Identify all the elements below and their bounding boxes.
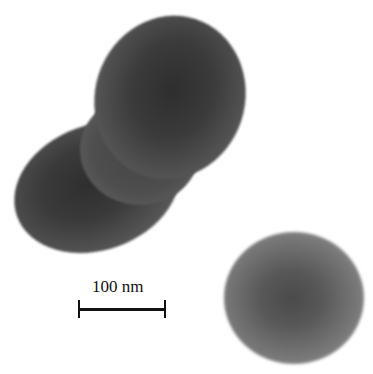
- micrograph: 100 nm: [0, 0, 373, 374]
- spherical-particle: [224, 232, 364, 364]
- scale-bar-label: 100 nm: [92, 277, 143, 297]
- scale-bar: [78, 308, 165, 311]
- scale-bar-right-tick: [164, 300, 166, 318]
